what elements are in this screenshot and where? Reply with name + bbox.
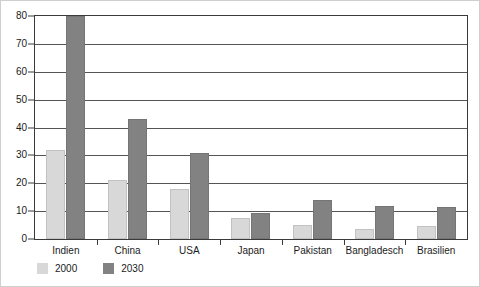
y-tick-label: 0	[21, 234, 27, 244]
x-label-bangladesch: Bangladesch	[346, 244, 404, 257]
legend-item-2000[interactable]: 2000	[37, 263, 77, 274]
legend-label: 2030	[121, 264, 143, 274]
bar-japan-2030[interactable]	[251, 213, 270, 239]
bar-china-2030[interactable]	[128, 119, 147, 239]
y-tick-label: 20	[16, 178, 27, 188]
x-label-usa: USA	[179, 244, 200, 257]
bar-pakistan-2030[interactable]	[313, 200, 332, 239]
x-label-japan: Japan	[237, 244, 264, 257]
legend-swatch-icon	[37, 263, 48, 274]
x-label-indien: Indien	[52, 244, 79, 257]
y-tick-label: 30	[16, 150, 27, 160]
bar-group	[158, 16, 220, 239]
chart-legend: 20002030	[37, 263, 144, 274]
y-tick-label: 40	[16, 123, 27, 133]
legend-swatch-icon	[103, 263, 114, 274]
bar-bangladesch-2030[interactable]	[375, 206, 394, 239]
bar-group	[97, 16, 159, 239]
bar-usa-2030[interactable]	[190, 153, 209, 239]
y-axis-labels: 01020304050607080	[1, 15, 27, 240]
y-tick-label: 10	[16, 206, 27, 216]
bar-pakistan-2000[interactable]	[293, 225, 312, 239]
bar-japan-2000[interactable]	[231, 218, 250, 239]
legend-label: 2000	[55, 264, 77, 274]
x-label-china: China	[114, 244, 140, 257]
bar-usa-2000[interactable]	[170, 189, 189, 239]
bar-group	[282, 16, 344, 239]
bar-bangladesch-2000[interactable]	[355, 229, 374, 239]
y-tick-label: 50	[16, 95, 27, 105]
bar-group	[344, 16, 406, 239]
x-label-pakistan: Pakistan	[294, 244, 332, 257]
bar-indien-2030[interactable]	[66, 16, 85, 239]
bar-group	[220, 16, 282, 239]
bar-china-2000[interactable]	[108, 180, 127, 239]
x-label-brasilien: Brasilien	[417, 244, 455, 257]
bar-brasilien-2000[interactable]	[417, 226, 436, 239]
bars-layer	[35, 16, 467, 239]
legend-item-2030[interactable]: 2030	[103, 263, 143, 274]
y-tick-label: 80	[16, 11, 27, 21]
y-tick-label: 60	[16, 67, 27, 77]
x-axis-labels: IndienChinaUSAJapanPakistanBangladeschBr…	[35, 244, 467, 258]
chart-screenshot: 01020304050607080 IndienChinaUSAJapanPak…	[0, 0, 480, 287]
bar-group	[35, 16, 97, 239]
bar-group	[405, 16, 467, 239]
bar-brasilien-2030[interactable]	[437, 207, 456, 239]
bar-indien-2000[interactable]	[46, 150, 65, 239]
y-tick-label: 70	[16, 39, 27, 49]
